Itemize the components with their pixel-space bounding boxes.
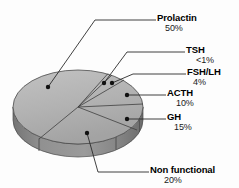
slice-label-nonfunctional-name: Non functional [150,165,215,175]
slice-label-acth-name: ACTH [167,88,194,98]
dot-acth [125,93,129,97]
dot-nonfunctional [85,131,89,135]
slice-label-fshlh-name: FSH/LH [187,67,221,77]
slice-label-gh: GH 15% [167,112,192,132]
slice-label-gh-value: 15% [167,122,192,132]
slice-label-tsh-value: <1% [186,55,214,65]
slice-label-nonfunctional-value: 20% [150,175,215,185]
pie-chart-figure: Prolactin 50% TSH <1% FSH/LH 4% ACTH 10%… [0,0,239,188]
dot-tsh [102,81,106,85]
slice-label-fshlh-value: 4% [187,77,221,87]
dot-prolactin [46,85,50,89]
slice-label-tsh-name: TSH [186,45,214,55]
slice-label-fshlh: FSH/LH 4% [187,67,221,87]
slice-label-acth: ACTH 10% [167,88,194,108]
slice-label-acth-value: 10% [167,98,194,108]
slice-label-gh-name: GH [167,112,192,122]
slice-label-prolactin-value: 50% [157,23,197,33]
slice-label-nonfunctional: Non functional 20% [150,165,215,185]
slice-label-tsh: TSH <1% [186,45,214,65]
pie-chart-graphic [0,0,239,188]
slice-label-prolactin: Prolactin 50% [157,13,197,33]
dot-fshlh [110,81,114,85]
slice-label-prolactin-name: Prolactin [157,13,197,23]
dot-gh [125,117,129,121]
